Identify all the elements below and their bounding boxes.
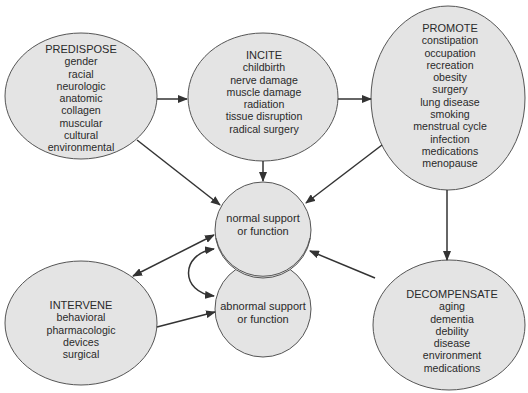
abnormal-support-label: abnormal support or function xyxy=(220,300,306,326)
predispose-item: anatomic xyxy=(45,92,117,104)
decompensate-label: DECOMPENSATE aging dementia debility dis… xyxy=(406,288,497,374)
incite-item: muscle damage xyxy=(226,86,303,98)
normal-support-line: normal support xyxy=(226,212,299,225)
incite-item: nerve damage xyxy=(226,74,303,86)
incite-title: INCITE xyxy=(226,49,303,61)
decompensate-item: debility xyxy=(406,325,497,337)
predispose-item: racial xyxy=(45,68,117,80)
decompensate-item: aging xyxy=(406,300,497,312)
arrow-intervene-normal-bidirectional xyxy=(133,235,214,276)
promote-item: surgery xyxy=(413,83,487,95)
arrow-promote-to-normal xyxy=(306,145,382,203)
predispose-label: PREDISPOSE gender racial neurologic anat… xyxy=(45,43,117,154)
promote-item: recreation xyxy=(413,59,487,71)
predispose-item: muscular xyxy=(45,117,117,129)
promote-label: PROMOTE constipation occupation recreati… xyxy=(413,22,487,170)
abnormal-support-line: or function xyxy=(220,313,306,326)
predispose-item: gender xyxy=(45,55,117,67)
arrow-intervene-to-abnormal xyxy=(157,312,215,327)
pelvic-floor-disorder-model-diagram: PREDISPOSE gender racial neurologic anat… xyxy=(0,0,528,393)
promote-item: constipation xyxy=(413,34,487,46)
decompensate-item: dementia xyxy=(406,313,497,325)
intervene-item: devices xyxy=(47,336,116,348)
predispose-item: cultural xyxy=(45,129,117,141)
promote-item: medications xyxy=(413,145,487,157)
decompensate-item: environment xyxy=(406,349,497,361)
promote-item: obesity xyxy=(413,71,487,83)
abnormal-support-line: abnormal support xyxy=(220,300,306,313)
promote-item: smoking xyxy=(413,108,487,120)
incite-item: radical surgery xyxy=(226,123,303,135)
decompensate-item: disease xyxy=(406,337,497,349)
incite-label: INCITE childbirth nerve damage muscle da… xyxy=(226,49,303,135)
promote-item: lung disease xyxy=(413,96,487,108)
normal-support-label: normal support or function xyxy=(226,212,299,238)
predispose-item: neurologic xyxy=(45,80,117,92)
incite-item: tissue disruption xyxy=(226,110,303,122)
predispose-item: environmental xyxy=(45,141,117,153)
intervene-label: INTERVENE behavioral pharmacologic devic… xyxy=(47,299,116,360)
intervene-item: pharmacologic xyxy=(47,324,116,336)
promote-item: occupation xyxy=(413,47,487,59)
predispose-title: PREDISPOSE xyxy=(45,43,117,55)
decompensate-title: DECOMPENSATE xyxy=(406,288,497,300)
arrow-normal-abnormal-curved-bidirectional xyxy=(189,249,215,296)
predispose-item: collagen xyxy=(45,104,117,116)
normal-support-line: or function xyxy=(226,225,299,238)
promote-item: infection xyxy=(413,133,487,145)
arrow-predispose-to-normal xyxy=(137,140,220,205)
incite-item: radiation xyxy=(226,98,303,110)
arrow-decompensate-to-normal xyxy=(310,251,375,278)
promote-title: PROMOTE xyxy=(413,22,487,34)
intervene-item: behavioral xyxy=(47,311,116,323)
incite-item: childbirth xyxy=(226,61,303,73)
intervene-item: surgical xyxy=(47,348,116,360)
intervene-title: INTERVENE xyxy=(47,299,116,311)
promote-item: menstrual cycle xyxy=(413,120,487,132)
promote-item: menopause xyxy=(413,157,487,169)
decompensate-item: medications xyxy=(406,362,497,374)
